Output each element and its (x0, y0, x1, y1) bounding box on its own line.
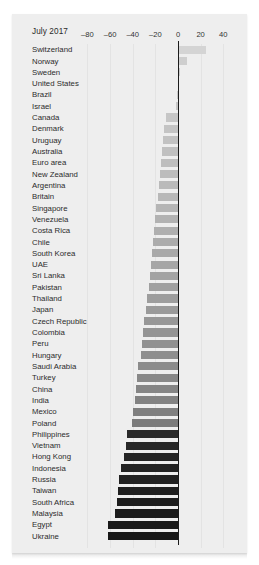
tick-label-20: 20 (196, 30, 204, 39)
bar (142, 340, 178, 348)
category-label: Malaysia (32, 508, 63, 519)
category-label: Pakistan (32, 282, 62, 293)
bar (156, 204, 178, 212)
bar (164, 125, 178, 133)
table-row: Uruguay (12, 135, 247, 146)
table-row: Israel (12, 101, 247, 112)
plot-area: –80–60–40–2002040 SwitzerlandNorwaySwede… (12, 14, 247, 553)
bar (115, 509, 178, 517)
bar (127, 430, 178, 438)
table-row: Venezuela (12, 214, 247, 225)
category-label: Ukraine (32, 531, 59, 542)
table-row: Australia (12, 146, 247, 157)
bar (133, 408, 178, 416)
bar (160, 170, 178, 178)
table-row: Canada (12, 112, 247, 123)
table-row: Vietnam (12, 440, 247, 451)
bar (178, 57, 187, 65)
bar (146, 306, 178, 314)
table-row: China (12, 383, 247, 394)
bar (137, 374, 178, 382)
bar (161, 159, 178, 167)
category-label: Switzerland (32, 44, 72, 55)
category-label: Sri Lanka (32, 270, 65, 281)
category-label: India (32, 395, 49, 406)
table-row: Saudi Arabia (12, 361, 247, 372)
bar (159, 181, 178, 189)
bar (153, 238, 178, 246)
bar (119, 475, 178, 483)
table-row: Japan (12, 304, 247, 315)
category-label: UAE (32, 259, 48, 270)
bar (149, 283, 178, 291)
category-label: Thailand (32, 293, 62, 304)
table-row: South Korea (12, 248, 247, 259)
bar (141, 351, 178, 359)
table-row: Indonesia (12, 463, 247, 474)
bar (117, 498, 178, 506)
table-row: Poland (12, 417, 247, 428)
table-row: Brazil (12, 89, 247, 100)
tick-label--20: –20 (149, 30, 162, 39)
category-label: Sweden (32, 67, 60, 78)
category-label: Philippines (32, 429, 70, 440)
table-row: Norway (12, 55, 247, 66)
bar (108, 532, 178, 540)
bar (132, 419, 178, 427)
category-label: Vietnam (32, 440, 60, 451)
table-row: India (12, 395, 247, 406)
category-label: Argentina (32, 180, 65, 191)
bar (166, 113, 178, 121)
category-label: Turkey (32, 372, 56, 383)
category-label: Egypt (32, 519, 52, 530)
table-row: Euro area (12, 157, 247, 168)
bar (155, 215, 178, 223)
bar (144, 317, 178, 325)
table-row: Sri Lanka (12, 270, 247, 281)
table-row: Peru (12, 338, 247, 349)
category-label: Norway (32, 56, 58, 67)
table-row: Argentina (12, 180, 247, 191)
category-label: South Africa (32, 497, 74, 508)
bar (108, 521, 178, 529)
bar (154, 227, 178, 235)
table-row: Switzerland (12, 44, 247, 55)
category-label: Poland (32, 418, 56, 429)
category-label: Britain (32, 191, 54, 202)
category-label: South Korea (32, 248, 75, 259)
bar (118, 487, 178, 495)
category-label: Denmark (32, 123, 64, 134)
category-label: Czech Republic (32, 316, 87, 327)
table-row: Ukraine (12, 530, 247, 541)
bar (178, 46, 206, 54)
category-label: Russia (32, 474, 56, 485)
category-label: Hungary (32, 350, 61, 361)
table-row: Denmark (12, 123, 247, 134)
category-label: Brazil (32, 89, 52, 100)
table-row: South Africa (12, 497, 247, 508)
bar (150, 272, 178, 280)
bar (158, 193, 178, 201)
table-row: Malaysia (12, 508, 247, 519)
table-row: Turkey (12, 372, 247, 383)
bar (162, 147, 178, 155)
category-label: Hong Kong (32, 451, 71, 462)
tick-label-40: 40 (219, 30, 227, 39)
category-label: Indonesia (32, 463, 66, 474)
category-label: United States (32, 78, 79, 89)
category-label: Singapore (32, 203, 68, 214)
table-row: Mexico (12, 406, 247, 417)
category-label: Euro area (32, 157, 66, 168)
table-row: New Zealand (12, 168, 247, 179)
bar (147, 294, 178, 302)
category-label: Mexico (32, 406, 57, 417)
bar (138, 362, 178, 370)
table-row: Hungary (12, 349, 247, 360)
category-label: Peru (32, 338, 48, 349)
zero-axis-line (178, 41, 179, 545)
tick-label-0: 0 (176, 30, 180, 39)
bar (163, 136, 178, 144)
panel-shadow (12, 553, 247, 559)
bar (124, 453, 178, 461)
bar (151, 261, 178, 269)
